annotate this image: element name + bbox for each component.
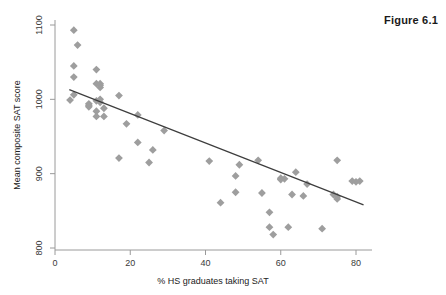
y-tick-label: 1100 <box>34 15 44 34</box>
data-point-marker <box>134 139 142 147</box>
data-point-marker <box>70 26 78 34</box>
x-tick-label: 80 <box>351 258 361 268</box>
data-point-marker <box>299 192 307 200</box>
data-point-marker <box>92 66 100 74</box>
regression-line <box>69 90 363 205</box>
y-axis-title: Mean composite SAT score <box>12 80 22 190</box>
data-point-marker <box>333 156 341 164</box>
data-point-marker <box>70 73 78 81</box>
data-point-marker <box>92 113 100 121</box>
data-point-marker <box>266 208 274 216</box>
data-point-marker <box>258 189 266 197</box>
figure-label: Figure 6.1 <box>384 14 438 26</box>
data-point-marker <box>115 154 123 162</box>
data-point-marker <box>217 199 225 207</box>
data-point-marker <box>149 146 157 154</box>
x-tick-label: 20 <box>125 258 135 268</box>
data-point-marker <box>232 188 240 196</box>
data-point-marker <box>318 225 326 233</box>
data-point-marker <box>74 41 82 49</box>
y-axis-ticks: 80090010001100 <box>34 15 55 255</box>
data-point-marker <box>115 92 123 100</box>
data-points-group <box>66 26 364 238</box>
data-point-marker <box>292 168 300 176</box>
data-point-marker <box>205 157 213 165</box>
axes-group <box>55 20 372 250</box>
x-tick-label: 40 <box>200 258 210 268</box>
x-tick-label: 0 <box>52 258 57 268</box>
data-point-marker <box>269 231 277 239</box>
figure-container: Figure 6.1 80090010001100 020406080 Mean… <box>0 0 446 295</box>
scatter-plot: 80090010001100 020406080 Mean composite … <box>0 0 446 295</box>
data-point-marker <box>145 159 153 167</box>
data-point-marker <box>70 62 78 70</box>
data-point-marker <box>266 223 274 231</box>
data-point-marker <box>284 223 292 231</box>
data-point-marker <box>235 161 243 169</box>
x-tick-label: 60 <box>276 258 286 268</box>
data-point-marker <box>288 191 296 199</box>
data-point-marker <box>100 104 108 112</box>
y-tick-label: 1000 <box>34 89 44 109</box>
data-point-marker <box>123 120 131 128</box>
x-axis-ticks: 020406080 <box>52 250 361 268</box>
y-tick-label: 800 <box>34 240 44 255</box>
y-tick-label: 900 <box>34 166 44 181</box>
data-point-marker <box>100 113 108 121</box>
data-point-marker <box>232 172 240 180</box>
x-axis-title: % HS graduates taking SAT <box>157 276 269 286</box>
